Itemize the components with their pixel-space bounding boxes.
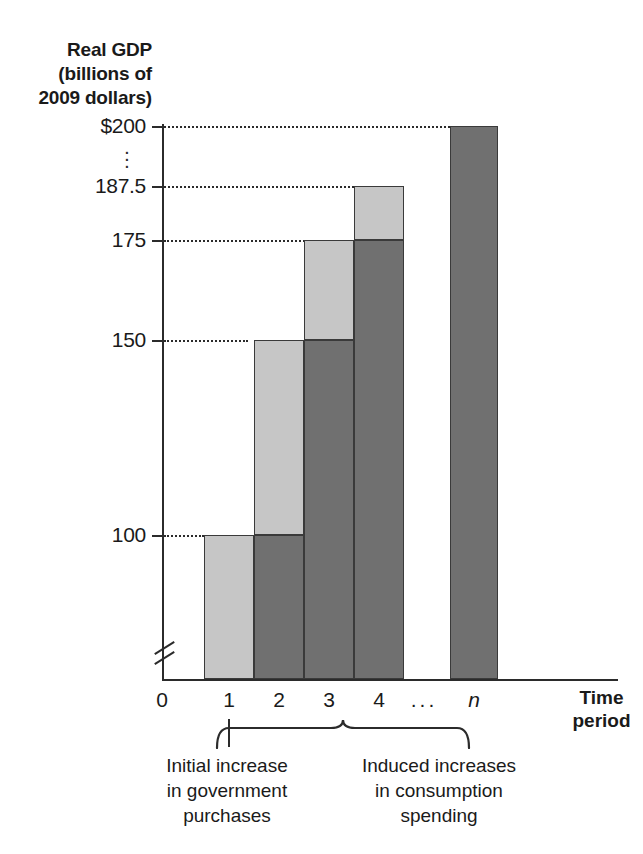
x-tick-label-n: n bbox=[454, 688, 494, 712]
gridline-100 bbox=[164, 535, 204, 537]
bar-period-3 bbox=[304, 240, 354, 679]
bar-4-base-segment bbox=[354, 240, 404, 679]
annotation-initial-line-3: purchases bbox=[118, 803, 336, 828]
bar-2-base-segment bbox=[254, 535, 304, 679]
y-axis-title-line-3: 2009 dollars) bbox=[0, 86, 152, 110]
x-axis-title-line-1: Time bbox=[560, 686, 643, 709]
bar-4-increment-segment bbox=[354, 186, 404, 240]
axis-break-icon bbox=[151, 638, 177, 668]
bar-period-1 bbox=[204, 535, 254, 679]
x-tick-label-3: 3 bbox=[309, 688, 349, 712]
annotation-induced-line-1: Induced increases bbox=[330, 753, 548, 778]
x-axis-line bbox=[162, 679, 618, 681]
annotation-initial-line-1: Initial increase bbox=[118, 753, 336, 778]
y-tick-175 bbox=[152, 240, 164, 242]
bar-n-base-segment bbox=[450, 126, 498, 679]
bar-3-increment-segment bbox=[304, 240, 354, 340]
x-tick-label-1: 1 bbox=[209, 688, 249, 712]
annotation-induced-line-3: spending bbox=[330, 803, 548, 828]
gridline-200 bbox=[164, 126, 498, 128]
y-tick-150 bbox=[152, 340, 164, 342]
y-axis-title-line-1: Real GDP bbox=[0, 38, 152, 62]
bar-2-increment-segment bbox=[254, 340, 304, 535]
x-tick-label-ellipsis: ... bbox=[404, 688, 444, 712]
x-tick-label-4: 4 bbox=[359, 688, 399, 712]
bar-period-n bbox=[450, 126, 498, 679]
y-axis-title: Real GDP (billions of 2009 dollars) bbox=[0, 38, 152, 110]
gridline-150 bbox=[164, 340, 248, 342]
annotation-initial-increase: Initial increase in government purchases bbox=[118, 753, 336, 828]
bar-3-base-segment bbox=[304, 340, 354, 679]
y-axis-line bbox=[162, 124, 164, 680]
bar-period-2 bbox=[254, 340, 304, 679]
annotation-induced-increases: Induced increases in consumption spendin… bbox=[330, 753, 548, 828]
bar-1-increment-segment bbox=[204, 535, 254, 679]
bar-period-4 bbox=[354, 186, 404, 679]
multiplier-effect-bar-chart: Real GDP (billions of 2009 dollars) $200… bbox=[0, 0, 643, 854]
y-tick-187-5 bbox=[152, 186, 164, 188]
x-tick-label-2: 2 bbox=[259, 688, 299, 712]
x-tick-label-0: 0 bbox=[142, 688, 182, 712]
annotation-induced-line-2: in consumption bbox=[330, 778, 548, 803]
x-axis-title-line-2: period bbox=[560, 709, 643, 732]
annotation-brace-induced bbox=[215, 719, 471, 749]
y-axis-title-line-2: (billions of bbox=[0, 62, 152, 86]
y-axis-ellipsis-icon: ... bbox=[100, 143, 154, 164]
x-axis-title: Time period bbox=[560, 686, 643, 732]
y-tick-100 bbox=[152, 535, 164, 537]
annotation-initial-line-2: in government bbox=[118, 778, 336, 803]
y-tick-200 bbox=[152, 126, 164, 128]
